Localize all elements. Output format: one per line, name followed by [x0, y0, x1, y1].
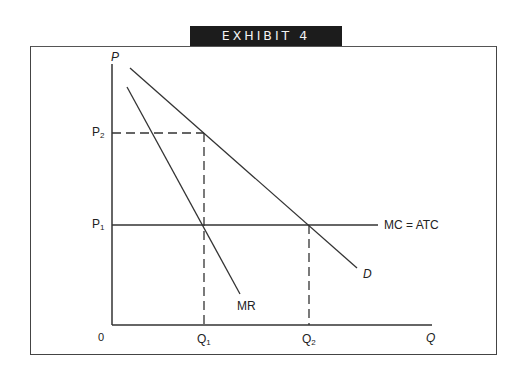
price-label-p1: P1	[92, 217, 104, 232]
quantity-label-q2: Q2	[302, 332, 316, 347]
quantity-label-q1: Q1	[197, 332, 211, 347]
y-axis-label: P	[111, 50, 119, 64]
x-axis-label: Q	[426, 331, 435, 345]
origin-label: 0	[98, 331, 104, 343]
marginal-revenue-curve	[127, 87, 240, 294]
demand-curve	[130, 68, 357, 268]
monopoly-diagram	[0, 0, 523, 378]
demand-label: D	[363, 267, 372, 281]
marginal-revenue-label: MR	[237, 299, 256, 313]
price-label-p2: P2	[92, 125, 104, 140]
cost-curve-label: MC = ATC	[384, 218, 439, 232]
